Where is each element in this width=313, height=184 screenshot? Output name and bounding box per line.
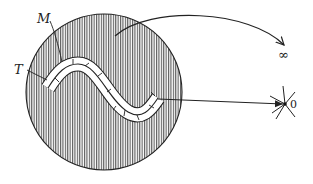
label-zero: 0 [290, 98, 297, 111]
label-infinity: ∞ [278, 47, 289, 62]
label-M: M [36, 11, 51, 26]
label-T: T [14, 62, 24, 77]
diagram-canvas: M T ∞ 0 [0, 0, 313, 184]
